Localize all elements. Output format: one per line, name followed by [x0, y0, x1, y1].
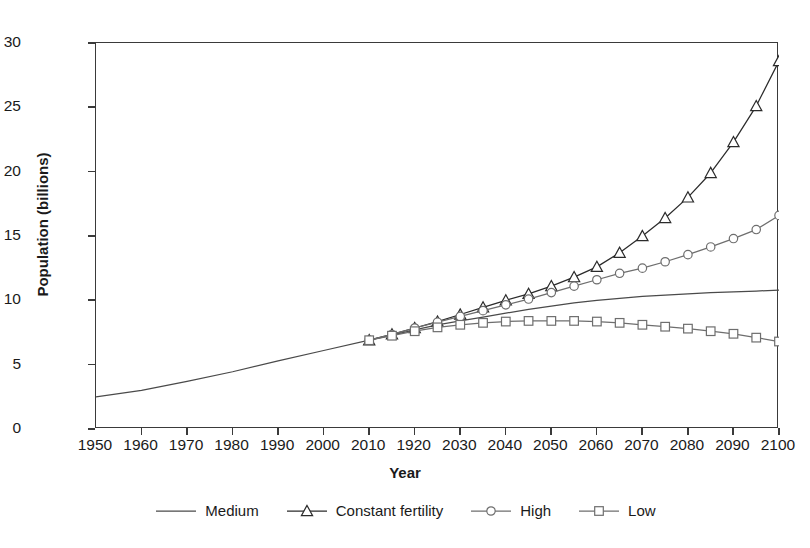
x-tick-mark	[277, 428, 279, 435]
data-point-marker	[456, 320, 465, 329]
data-point-marker	[661, 258, 669, 266]
series-line	[96, 290, 779, 397]
data-point-marker	[570, 282, 578, 290]
data-point-marker	[661, 322, 670, 331]
data-point-marker	[524, 295, 532, 303]
x-tick-mark	[232, 428, 234, 435]
data-point-marker	[638, 320, 647, 329]
data-point-marker	[433, 323, 442, 332]
data-point-marker	[684, 324, 693, 333]
legend-item-medium[interactable]: Medium	[154, 502, 258, 519]
data-point-marker	[524, 317, 533, 326]
data-point-marker	[775, 211, 779, 219]
y-tick-label: 0	[0, 419, 21, 437]
x-tick-label: 1960	[117, 436, 165, 454]
x-tick-label: 2040	[481, 436, 529, 454]
data-point-marker	[729, 329, 738, 338]
x-tick-label: 2010	[344, 436, 392, 454]
data-point-marker	[752, 225, 760, 233]
legend-symbol-circle-icon	[469, 503, 513, 519]
data-point-marker	[614, 247, 625, 257]
data-point-marker	[637, 230, 648, 240]
legend-item-high[interactable]: High	[469, 502, 551, 519]
data-point-marker	[751, 100, 762, 110]
legend-label: Low	[628, 502, 656, 519]
y-tick-mark	[88, 299, 95, 301]
data-point-marker	[502, 317, 511, 326]
x-tick-mark	[732, 428, 734, 435]
y-tick-mark	[88, 235, 95, 237]
data-point-marker	[615, 319, 624, 328]
data-point-marker	[591, 261, 602, 271]
y-tick-label: 25	[0, 97, 21, 115]
x-tick-mark	[596, 428, 598, 435]
legend-label: High	[520, 502, 551, 519]
y-tick-label: 30	[0, 33, 21, 51]
y-tick-mark	[88, 364, 95, 366]
data-point-marker	[615, 269, 623, 277]
y-tick-mark	[88, 171, 95, 173]
data-point-marker	[593, 276, 601, 284]
data-point-marker	[479, 306, 487, 314]
x-tick-mark	[141, 428, 143, 435]
x-tick-mark	[368, 428, 370, 435]
plot-area	[95, 42, 778, 428]
x-tick-mark	[550, 428, 552, 435]
legend-label: Constant fertility	[336, 502, 444, 519]
x-tick-label: 1990	[253, 436, 301, 454]
data-point-marker	[707, 243, 715, 251]
x-tick-label: 1970	[162, 436, 210, 454]
series-constant-fertility	[364, 55, 779, 344]
data-point-marker	[502, 301, 510, 309]
legend-label: Medium	[205, 502, 258, 519]
legend-symbol-none-icon	[154, 503, 198, 519]
x-tick-mark	[186, 428, 188, 435]
data-point-marker	[775, 337, 779, 346]
data-point-marker	[638, 264, 646, 272]
x-tick-label: 1980	[208, 436, 256, 454]
legend-symbol-triangle-icon	[285, 503, 329, 519]
legend-symbol-square-icon	[577, 503, 621, 519]
data-point-marker	[593, 317, 602, 326]
series-line	[369, 61, 779, 340]
y-tick-mark	[88, 428, 95, 430]
data-point-marker	[547, 288, 555, 296]
data-point-marker	[365, 336, 374, 345]
y-tick-label: 10	[0, 290, 21, 308]
x-tick-label: 2070	[617, 436, 665, 454]
population-projection-chart: Population (billions) 051015202530 19501…	[0, 0, 810, 548]
data-point-marker	[569, 272, 580, 282]
data-point-marker	[456, 312, 464, 320]
x-tick-mark	[323, 428, 325, 435]
data-point-marker	[547, 317, 556, 326]
y-tick-mark	[88, 42, 95, 44]
y-tick-label: 20	[0, 162, 21, 180]
data-point-marker	[388, 331, 397, 340]
x-tick-label: 2060	[572, 436, 620, 454]
data-point-marker	[752, 333, 761, 342]
data-point-marker	[410, 327, 419, 336]
x-tick-mark	[459, 428, 461, 435]
x-tick-label: 2100	[754, 436, 802, 454]
data-point-marker	[570, 317, 579, 326]
x-tick-mark	[414, 428, 416, 435]
data-point-marker	[705, 167, 716, 177]
y-axis-title: Population (billions)	[34, 105, 51, 345]
legend-item-constant-fertility[interactable]: Constant fertility	[285, 502, 444, 519]
x-tick-mark	[687, 428, 689, 435]
x-tick-label: 2030	[435, 436, 483, 454]
x-tick-label: 1950	[71, 436, 119, 454]
x-tick-label: 2090	[708, 436, 756, 454]
y-tick-label: 15	[0, 226, 21, 244]
x-axis-title: Year	[0, 464, 810, 481]
data-point-marker	[706, 327, 715, 336]
x-tick-mark	[505, 428, 507, 435]
legend-item-low[interactable]: Low	[577, 502, 656, 519]
x-tick-label: 1920	[390, 436, 438, 454]
x-tick-label: 2080	[663, 436, 711, 454]
data-point-marker	[729, 234, 737, 242]
x-tick-label: 2050	[526, 436, 574, 454]
x-tick-mark	[778, 428, 780, 435]
data-point-marker	[479, 319, 488, 328]
x-tick-label: 2000	[299, 436, 347, 454]
